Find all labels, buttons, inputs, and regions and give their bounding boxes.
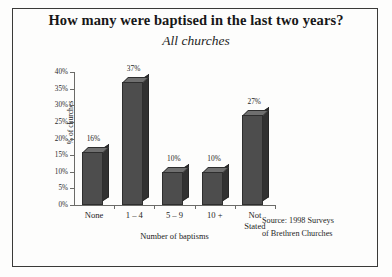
- x-category-label-line: None: [74, 210, 114, 221]
- x-axis-line: [74, 205, 276, 206]
- y-tick-label: 35%: [55, 84, 68, 92]
- bar-value-label: 27%: [247, 97, 261, 106]
- y-tick-label: 5%: [58, 184, 68, 192]
- y-tick-mark: [70, 172, 74, 173]
- y-tick-label: 15%: [55, 151, 68, 159]
- plot-area: % of churches Number of baptisms 0%5%10%…: [74, 72, 275, 205]
- y-tick-mark: [70, 188, 74, 189]
- y-tick-label: 20%: [55, 134, 68, 142]
- bar-value-label: 10%: [167, 154, 181, 163]
- figure-canvas: How many were baptised in the last two y…: [0, 0, 392, 277]
- x-tick-mark: [235, 205, 236, 209]
- bar-value-label: 37%: [127, 64, 141, 73]
- y-tick-label: 25%: [55, 118, 68, 126]
- y-tick-label: 30%: [55, 101, 68, 109]
- x-category-label-line: 10 +: [195, 210, 235, 221]
- source-line-1: Source: 1998 Surveys: [262, 215, 382, 228]
- y-tick-mark: [70, 205, 74, 206]
- bar-value-label: 10%: [207, 154, 221, 163]
- bar: 16%: [82, 152, 103, 205]
- y-tick-mark: [70, 155, 74, 156]
- y-tick-mark: [70, 72, 74, 73]
- source-line-2: of Brethren Churches: [262, 228, 382, 241]
- y-tick-mark: [70, 89, 74, 90]
- x-category-label: 10 +: [195, 210, 235, 221]
- y-tick-mark: [70, 122, 74, 123]
- bar: 10%: [202, 172, 223, 205]
- x-axis-title: Number of baptisms: [74, 232, 275, 241]
- bar-front-face: [82, 152, 103, 205]
- bar: 27%: [242, 115, 263, 205]
- x-tick-mark: [275, 205, 276, 209]
- y-tick-label: 10%: [55, 168, 68, 176]
- y-tick-label: 0%: [58, 201, 68, 209]
- x-tick-mark: [195, 205, 196, 209]
- x-category-label: None: [74, 210, 114, 221]
- bar: 37%: [122, 82, 143, 205]
- x-category-label: 1 – 4: [114, 210, 154, 221]
- x-category-label-line: 1 – 4: [114, 210, 154, 221]
- chart-title: How many were baptised in the last two y…: [0, 12, 392, 29]
- y-tick-mark: [70, 105, 74, 106]
- chart-subtitle: All churches: [0, 33, 392, 49]
- bar-side-face: [143, 74, 149, 201]
- x-tick-mark: [154, 205, 155, 209]
- bar-front-face: [122, 82, 143, 205]
- y-tick-mark: [70, 139, 74, 140]
- bar-value-label: 16%: [87, 134, 101, 143]
- x-tick-mark: [114, 205, 115, 209]
- x-category-label-line: 5 – 9: [154, 210, 194, 221]
- bar: 10%: [162, 172, 183, 205]
- source-note: Source: 1998 Surveys of Brethren Churche…: [262, 215, 382, 240]
- bar-front-face: [162, 172, 183, 205]
- bar-side-face: [263, 107, 269, 201]
- x-category-label: 5 – 9: [154, 210, 194, 221]
- bar-front-face: [202, 172, 223, 205]
- bar-front-face: [242, 115, 263, 205]
- y-tick-label: 40%: [55, 68, 68, 76]
